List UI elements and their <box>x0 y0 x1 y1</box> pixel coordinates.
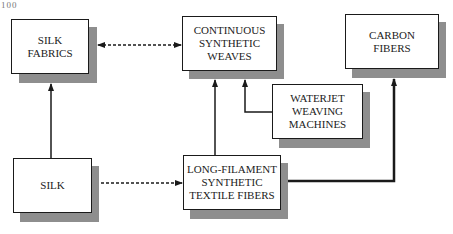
node-waterjet-weaving-machines: WATERJET WEAVING MACHINES <box>272 84 363 139</box>
node-label: CONTINUOUS SYNTHETIC WEAVES <box>194 24 266 63</box>
arrow-waterjet-to-continuous <box>245 80 272 112</box>
node-label: SILK <box>40 179 64 192</box>
node-label: CARBON FIBERS <box>369 29 415 55</box>
node-label: WATERJET WEAVING MACHINES <box>289 92 346 131</box>
node-continuous-synthetic-weaves: CONTINUOUS SYNTHETIC WEAVES <box>182 16 277 71</box>
node-silk: SILK <box>13 158 92 213</box>
node-label: SILK FABRICS <box>27 34 72 60</box>
node-label: LONG-FILAMENT SYNTHETIC TEXTILE FIBERS <box>187 163 277 202</box>
node-long-filament-synthetic-textile-fibers: LONG-FILAMENT SYNTHETIC TEXTILE FIBERS <box>183 155 281 210</box>
node-carbon-fibers: CARBON FIBERS <box>345 14 439 69</box>
node-silk-fabrics: SILK FABRICS <box>11 19 89 74</box>
